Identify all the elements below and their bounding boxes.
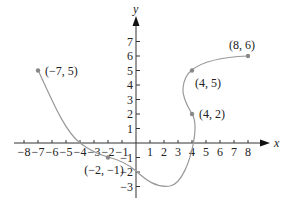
x-axis-arrow-icon [260, 140, 270, 147]
x-tick-label: 7 [231, 145, 237, 159]
y-tick-label: 3 [127, 93, 133, 107]
point-label: (8, 6) [229, 38, 255, 52]
y-tick-label: 5 [127, 64, 133, 78]
point-label: (−2, −1) [84, 163, 124, 177]
x-tick-label: 6 [217, 145, 223, 159]
x-tick-label: −5 [60, 145, 73, 159]
x-tick-label: −4 [74, 145, 87, 159]
point-label: (4, 5) [195, 76, 221, 90]
x-tick-label: −8 [18, 145, 31, 159]
y-axis-label: y [132, 2, 139, 16]
data-point [106, 155, 110, 159]
x-tick-label: 3 [175, 145, 181, 159]
x-tick-label: 8 [245, 145, 251, 159]
x-axis-label: x [273, 136, 280, 150]
y-axis-arrow-icon [133, 16, 140, 26]
y-tick-label: 6 [127, 49, 133, 63]
point-label: (−7, 5) [45, 64, 78, 78]
data-point [246, 54, 250, 58]
y-tick-label: 7 [127, 35, 133, 49]
data-point [190, 68, 194, 72]
y-tick-label: 2 [127, 107, 133, 121]
x-tick-label: 1 [147, 145, 153, 159]
y-tick-label: 4 [127, 78, 133, 92]
x-tick-label: 2 [161, 145, 167, 159]
x-tick-label: −6 [46, 145, 59, 159]
function-graph: x −8−7−6−5−4−3−2−112345678 y −3−2−112345… [0, 0, 286, 203]
x-axis: x −8−7−6−5−4−3−2−112345678 [14, 136, 280, 159]
y-tick-label: −3 [120, 180, 133, 194]
point-label: (4, 2) [199, 107, 225, 121]
y-tick-label: 1 [127, 122, 133, 136]
x-tick-label: 5 [203, 145, 209, 159]
data-point [36, 68, 40, 72]
data-point [190, 112, 194, 116]
x-tick-label: −7 [32, 145, 45, 159]
